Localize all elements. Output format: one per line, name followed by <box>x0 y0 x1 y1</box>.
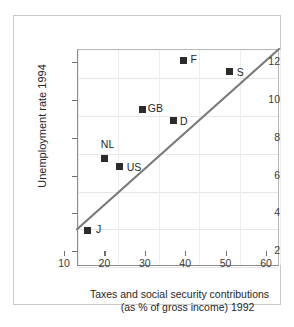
x-axis-tick <box>185 251 186 256</box>
y-axis-tick <box>72 100 77 101</box>
x-axis-tick-label: 50 <box>211 257 241 269</box>
data-point-label: S <box>237 67 244 78</box>
y-axis-tick-label: 6 <box>232 170 280 181</box>
figure-outer-frame: 24681012102030405060JNLUSGBDFS Unemploym… <box>13 15 281 305</box>
y-axis-tick-label: 2 <box>232 245 280 256</box>
data-point-marker[interactable] <box>139 106 146 113</box>
y-axis-tick <box>72 251 77 252</box>
gridline-vertical <box>78 50 79 265</box>
data-point-marker[interactable] <box>101 155 108 162</box>
data-point-marker[interactable] <box>116 163 123 170</box>
x-axis-tick <box>266 251 267 256</box>
data-point-label: J <box>96 224 101 235</box>
y-axis-tick <box>72 176 77 177</box>
x-axis-tick <box>145 251 146 256</box>
gridline-horizontal <box>78 78 278 79</box>
x-axis-title-line-2: (as % of gross income) 1992 <box>77 301 282 314</box>
y-axis-tick-label: 4 <box>232 207 280 218</box>
gridline-vertical <box>199 50 200 265</box>
data-point-marker[interactable] <box>226 68 233 75</box>
y-axis-tick <box>72 213 77 214</box>
data-point-label: D <box>180 116 188 127</box>
data-point-label: F <box>191 54 197 65</box>
y-axis-tick-label: 10 <box>232 94 280 105</box>
x-axis-tick-label: 60 <box>251 257 281 269</box>
data-point-marker[interactable] <box>170 117 177 124</box>
data-point-label: US <box>127 162 142 173</box>
gridline-vertical <box>118 50 119 265</box>
gridline-horizontal <box>78 116 278 117</box>
gridline-vertical <box>159 50 160 265</box>
gridline-vertical <box>280 50 281 265</box>
y-axis-title: Unemployment rate 1994 <box>36 46 48 206</box>
x-axis-title: Taxes and social security contributions … <box>77 288 282 314</box>
x-axis-tick-label: 40 <box>170 257 200 269</box>
x-axis-tick <box>104 251 105 256</box>
x-axis-tick-label: 30 <box>130 257 160 269</box>
x-axis-tick-label: 20 <box>89 257 119 269</box>
data-point-marker[interactable] <box>180 57 187 64</box>
data-point-marker[interactable] <box>84 227 91 234</box>
x-axis-title-line-1: Taxes and social security contributions <box>90 288 269 300</box>
y-axis-tick <box>72 138 77 139</box>
data-point-label: GB <box>148 103 163 114</box>
gridline-horizontal <box>78 192 278 193</box>
data-point-label: NL <box>101 139 114 150</box>
x-axis-tick-label: 10 <box>49 257 79 269</box>
y-axis-tick <box>72 62 77 63</box>
gridline-horizontal <box>78 229 278 230</box>
x-axis-tick <box>64 251 65 256</box>
x-axis-tick <box>226 251 227 256</box>
y-axis-tick-label: 8 <box>232 132 280 143</box>
figure-container: 24681012102030405060JNLUSGBDFS Unemploym… <box>0 0 294 327</box>
gridline-vertical <box>240 50 241 265</box>
